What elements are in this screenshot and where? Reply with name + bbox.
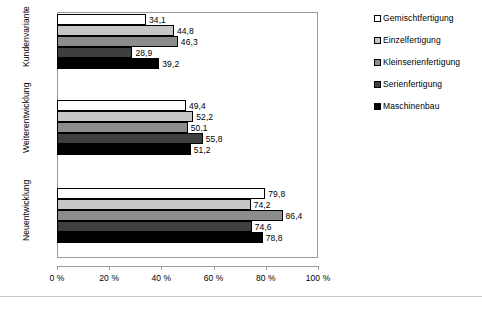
bar-row: 28,9 [57, 47, 318, 58]
category-label-text: Neuentwicklung [21, 189, 31, 241]
bar [57, 58, 159, 69]
bar-value-label: 50,1 [188, 123, 208, 133]
bar [57, 14, 146, 25]
legend-label: Serienfertigung [383, 79, 442, 89]
bar-row: 34,1 [57, 14, 318, 25]
bar-row: 79,8 [57, 188, 318, 199]
legend-item[interactable]: Kleinserienfertigung [374, 56, 460, 68]
bar [57, 188, 265, 199]
legend-item[interactable]: Maschinenbau [374, 100, 440, 112]
x-axis-tick [266, 266, 267, 270]
bar [57, 221, 252, 232]
bar-value-label: 86,4 [283, 211, 303, 221]
bar-value-label: 44,8 [174, 26, 194, 36]
x-axis-tick-label: 0 % [50, 273, 65, 283]
legend-label: Kleinserienfertigung [383, 57, 460, 67]
x-axis-tick-label: 40 % [152, 273, 172, 283]
bar [57, 144, 191, 155]
x-axis-tick-label: 60 % [204, 273, 224, 283]
bar-row: 74,6 [57, 221, 318, 232]
x-axis-tick [57, 266, 58, 270]
x-axis-line [57, 266, 319, 267]
chart-canvas: 34,144,846,328,939,249,452,250,155,851,2… [0, 0, 482, 311]
x-axis-tick-label: 100 % [306, 273, 331, 283]
legend-swatch-icon [374, 59, 381, 66]
bar-value-label: 79,8 [265, 189, 285, 199]
x-axis-tick [214, 266, 215, 270]
bar-value-label: 51,2 [191, 145, 211, 155]
bottom-divider [0, 296, 482, 297]
bar [57, 199, 251, 210]
bar-row: 74,2 [57, 199, 318, 210]
bar-value-label: 34,1 [146, 15, 166, 25]
bar-value-label: 52,2 [193, 112, 213, 122]
bar-row: 46,3 [57, 36, 318, 47]
x-axis-tick [161, 266, 162, 270]
bar [57, 47, 132, 58]
legend-label: Einzelfertigung [383, 35, 441, 45]
legend-item[interactable]: Einzelfertigung [374, 34, 441, 46]
bar-row: 51,2 [57, 144, 318, 155]
bar [57, 111, 193, 122]
legend-label: Maschinenbau [383, 101, 440, 111]
bar [57, 133, 203, 144]
bar-row: 44,8 [57, 25, 318, 36]
legend-item[interactable]: Serienfertigung [374, 78, 442, 90]
bar-value-label: 46,3 [178, 37, 198, 47]
bar [57, 232, 263, 243]
bar-value-label: 28,9 [132, 48, 152, 58]
bar-row: 86,4 [57, 210, 318, 221]
x-axis-tick [109, 266, 110, 270]
x-axis-tick-label: 80 % [256, 273, 276, 283]
bar-value-label: 39,2 [159, 59, 179, 69]
bar [57, 122, 188, 133]
bar-row: 55,8 [57, 133, 318, 144]
legend-swatch-icon [374, 103, 381, 110]
category-label-text: Kundenvariante [21, 15, 31, 67]
bar-row: 52,2 [57, 111, 318, 122]
bar [57, 36, 178, 47]
bar-value-label: 74,6 [252, 222, 272, 232]
category-label: Neuentwicklung [0, 210, 52, 222]
bar [57, 25, 174, 36]
bar-row: 50,1 [57, 122, 318, 133]
bar-row: 78,8 [57, 232, 318, 243]
bar [57, 210, 283, 221]
bar-value-label: 55,8 [203, 134, 223, 144]
bar-value-label: 49,4 [186, 101, 206, 111]
category-label-text: Weiterentwicklung [21, 101, 31, 153]
x-axis-tick-label: 20 % [99, 273, 119, 283]
legend-item[interactable]: Gemischtfertigung [374, 12, 454, 24]
legend-swatch-icon [374, 37, 381, 44]
bar-value-label: 74,2 [251, 200, 271, 210]
x-axis-tick [318, 266, 319, 270]
category-label: Kundenvariante [0, 36, 52, 48]
legend-swatch-icon [374, 15, 381, 22]
legend-label: Gemischtfertigung [383, 13, 454, 23]
category-label: Weiterentwicklung [0, 122, 52, 134]
legend-swatch-icon [374, 81, 381, 88]
bar [57, 100, 186, 111]
bar-row: 39,2 [57, 58, 318, 69]
bar-row: 49,4 [57, 100, 318, 111]
bar-value-label: 78,8 [263, 233, 283, 243]
